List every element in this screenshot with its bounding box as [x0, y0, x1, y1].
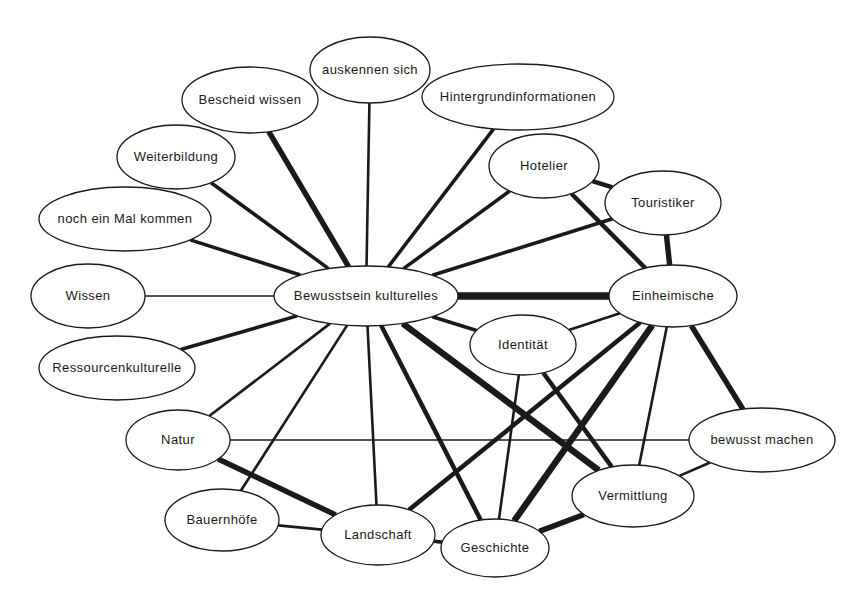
- node-shape-bescheid: [182, 67, 318, 133]
- node-landschaft[interactable]: Landschaft: [321, 505, 435, 565]
- node-shape-natur: [126, 410, 230, 470]
- edge-bescheid-bewusstsein: [269, 132, 349, 267]
- edge-touristiker-einheimische: [666, 235, 669, 265]
- edge-auskennen-bewusstsein: [367, 103, 370, 266]
- edge-hotelier-touristiker: [593, 181, 613, 187]
- node-bewusstsein[interactable]: Bewusstsein kulturelles: [274, 266, 458, 326]
- node-bescheid[interactable]: Bescheid wissen: [182, 67, 318, 133]
- node-shape-identitaet: [470, 315, 576, 375]
- node-hintergrund[interactable]: Hintergrundinformationen: [422, 64, 614, 130]
- node-natur[interactable]: Natur: [126, 410, 230, 470]
- edge-einheimische-identitaet: [569, 313, 620, 330]
- node-nochmal[interactable]: noch ein Mal kommen: [39, 187, 211, 251]
- node-shape-nochmal: [39, 187, 211, 251]
- edge-hintergrund-bewusstsein: [388, 129, 493, 267]
- node-bauernhoefe[interactable]: Bauernhöfe: [165, 489, 279, 551]
- nodes-layer: auskennen sichBescheid wissenHintergrund…: [31, 37, 835, 577]
- node-ressourcen[interactable]: Ressourcenkulturelle: [39, 336, 195, 400]
- node-shape-einheimische: [609, 265, 737, 327]
- node-shape-hotelier: [489, 134, 599, 198]
- node-shape-geschichte: [441, 519, 549, 577]
- concept-map-canvas: auskennen sichBescheid wissenHintergrund…: [0, 0, 861, 605]
- node-shape-vermittlung: [572, 465, 694, 527]
- edge-weiterbildung-bewusstsein: [211, 183, 328, 269]
- node-shape-touristiker: [605, 171, 721, 235]
- node-shape-landschaft: [321, 505, 435, 565]
- edge-bauernhoefe-landschaft: [278, 525, 322, 529]
- edge-geschichte-vermittlung: [539, 514, 584, 531]
- edge-nochmal-bewusstsein: [190, 240, 300, 275]
- node-einheimische[interactable]: Einheimische: [609, 265, 737, 327]
- edge-ressourcen-bewusstsein: [181, 316, 297, 350]
- node-shape-weiterbildung: [117, 125, 235, 189]
- node-touristiker[interactable]: Touristiker: [605, 171, 721, 235]
- node-shape-wissen: [31, 264, 145, 328]
- node-auskennen[interactable]: auskennen sich: [310, 37, 430, 103]
- node-identitaet[interactable]: Identität: [470, 315, 576, 375]
- node-vermittlung[interactable]: Vermittlung: [572, 465, 694, 527]
- edge-bewusstsein-landschaft: [368, 326, 377, 505]
- node-weiterbildung[interactable]: Weiterbildung: [117, 125, 235, 189]
- edge-vermittlung-bewusstmachen: [679, 463, 710, 476]
- node-shape-bewusstmachen: [689, 408, 835, 472]
- node-bewusstmachen[interactable]: bewusst machen: [689, 408, 835, 472]
- edge-bewusstsein-identitaet: [432, 317, 476, 331]
- network-diagram: auskennen sichBescheid wissenHintergrund…: [0, 0, 861, 605]
- node-shape-ressourcen: [39, 336, 195, 400]
- edge-einheimische-bewusstmachen: [691, 326, 743, 409]
- node-shape-hintergrund: [422, 64, 614, 130]
- edge-einheimische-vermittlung: [639, 327, 667, 465]
- node-shape-bauernhoefe: [165, 489, 279, 551]
- node-shape-auskennen: [310, 37, 430, 103]
- node-geschichte[interactable]: Geschichte: [441, 519, 549, 577]
- node-wissen[interactable]: Wissen: [31, 264, 145, 328]
- node-shape-bewusstsein: [274, 266, 458, 326]
- node-hotelier[interactable]: Hotelier: [489, 134, 599, 198]
- edge-landschaft-geschichte: [434, 541, 442, 542]
